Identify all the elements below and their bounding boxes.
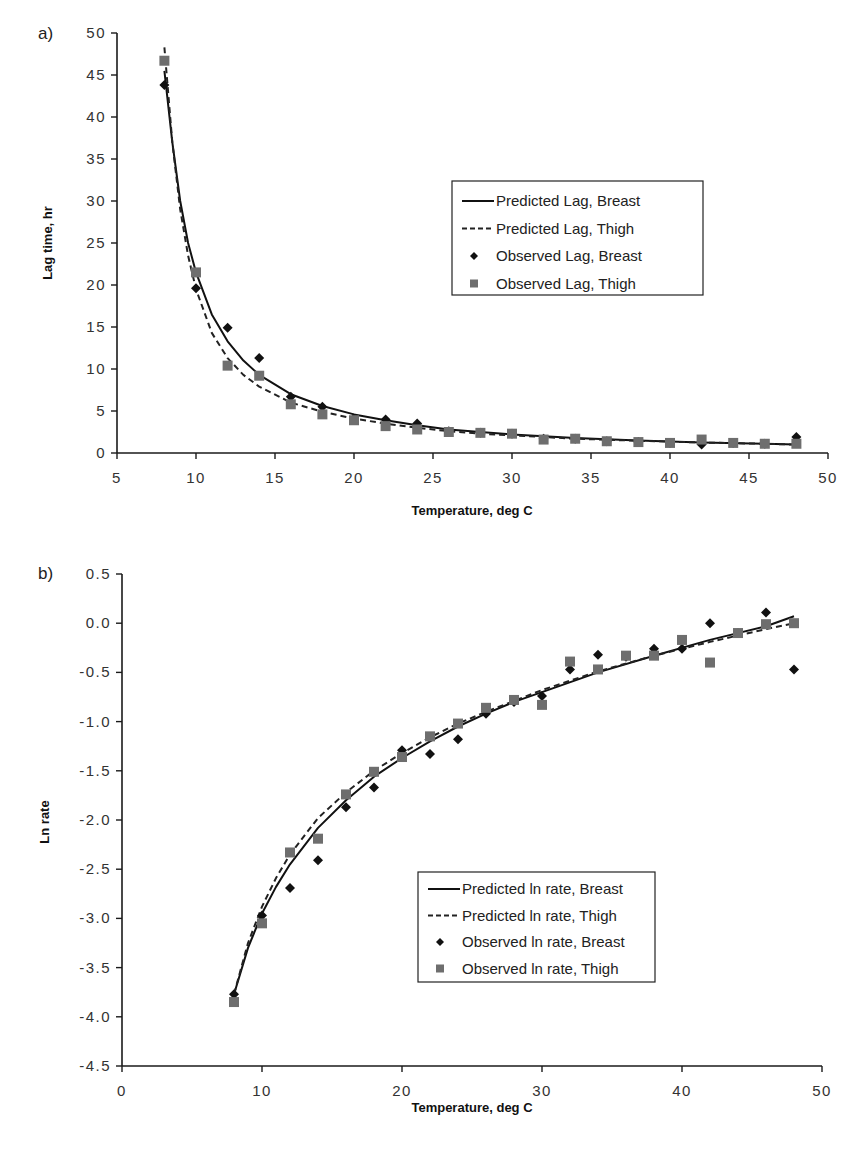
- panel-a-lag-time-chart: a) 05101520253035404550 5101520253035404…: [38, 24, 838, 518]
- legend-item: Observed ln rate, Breast: [436, 933, 625, 950]
- x-tick-label: 15: [265, 469, 285, 486]
- data-point-square: [791, 439, 801, 449]
- data-point-square: [369, 767, 379, 777]
- data-point-square: [665, 438, 675, 448]
- panel-b-y-axis-ticks: 0.50.0-0.5-1.0-1.5-2.0-2.5-3.0-3.5-4.0-4…: [79, 565, 122, 1074]
- x-tick-label: 50: [818, 469, 838, 486]
- y-tick-label: 35: [86, 150, 106, 167]
- data-point-square: [412, 424, 422, 434]
- data-point-square: [286, 399, 296, 409]
- y-tick-label: -4.0: [79, 1008, 111, 1025]
- x-tick-label: 10: [186, 469, 206, 486]
- panel-b-legend: Predicted ln rate, BreastPredicted ln ra…: [418, 872, 655, 982]
- data-point-square: [509, 695, 519, 705]
- data-point-diamond: [761, 607, 771, 617]
- y-tick-label: 5: [96, 402, 106, 419]
- data-point-square: [728, 438, 738, 448]
- legend-item: Observed ln rate, Thigh: [436, 960, 618, 977]
- y-tick-label: 15: [86, 318, 106, 335]
- panel-a-y-axis-ticks: 05101520253035404550: [86, 24, 117, 461]
- y-tick-label: 25: [86, 234, 106, 251]
- panel-a-x-axis-title: Temperature, deg C: [411, 503, 533, 518]
- data-point-square: [677, 635, 687, 645]
- legend-square-icon: [470, 280, 478, 288]
- legend-label: Predicted Lag, Thigh: [496, 220, 634, 237]
- data-point-square: [453, 719, 463, 729]
- x-tick-label: 0: [117, 1082, 127, 1099]
- data-point-square: [257, 918, 267, 928]
- data-point-square: [475, 428, 485, 438]
- y-tick-label: -2.0: [79, 811, 111, 828]
- data-point-square: [705, 658, 715, 668]
- data-point-square: [254, 371, 264, 381]
- data-point-diamond: [677, 644, 687, 654]
- data-point-square: [444, 427, 454, 437]
- data-point-square: [285, 847, 295, 857]
- data-point-diamond: [453, 734, 463, 744]
- panel-b-y-axis-title: Ln rate: [37, 800, 52, 843]
- data-point-square: [229, 997, 239, 1007]
- x-tick-label: 25: [423, 469, 443, 486]
- legend-label: Observed Lag, Breast: [496, 247, 643, 264]
- data-point-square: [397, 752, 407, 762]
- y-tick-label: 45: [86, 66, 106, 83]
- x-tick-label: 45: [739, 469, 759, 486]
- data-point-diamond: [285, 883, 295, 893]
- data-point-square: [481, 703, 491, 713]
- data-point-square: [223, 361, 233, 371]
- data-point-square: [633, 437, 643, 447]
- panel-a-legend: Predicted Lag, BreastPredicted Lag, Thig…: [452, 181, 703, 295]
- data-point-diamond: [593, 650, 603, 660]
- legend-label: Predicted ln rate, Thigh: [462, 907, 617, 924]
- data-point-square: [507, 429, 517, 439]
- data-point-diamond: [789, 664, 799, 674]
- y-tick-label: -3.5: [79, 959, 111, 976]
- data-point-square: [317, 409, 327, 419]
- data-point-square: [733, 628, 743, 638]
- data-point-square: [341, 789, 351, 799]
- data-point-square: [537, 700, 547, 710]
- data-point-square: [381, 421, 391, 431]
- y-tick-label: -1.5: [79, 762, 111, 779]
- x-tick-label: 50: [812, 1082, 832, 1099]
- panel-b-label: b): [38, 564, 53, 583]
- data-point-diamond: [369, 783, 379, 793]
- data-point-square: [349, 415, 359, 425]
- y-tick-label: -1.0: [79, 713, 111, 730]
- y-tick-label: 0: [96, 444, 106, 461]
- legend-label: Observed Lag, Thigh: [496, 275, 636, 292]
- y-tick-label: -2.5: [79, 860, 111, 877]
- y-tick-label: -3.0: [79, 909, 111, 926]
- x-tick-label: 35: [581, 469, 601, 486]
- data-point-square: [602, 436, 612, 446]
- data-point-diamond: [425, 749, 435, 759]
- data-point-square: [789, 618, 799, 628]
- data-point-square: [760, 439, 770, 449]
- data-point-square: [761, 619, 771, 629]
- data-point-diamond: [191, 283, 201, 293]
- data-point-square: [191, 267, 201, 277]
- data-point-square: [621, 651, 631, 661]
- panel-a-x-axis-ticks: 5101520253035404550: [112, 453, 838, 486]
- legend-item: Observed Lag, Breast: [470, 247, 643, 264]
- data-point-square: [539, 435, 549, 445]
- panel-b-x-axis-title: Temperature, deg C: [411, 1100, 533, 1115]
- x-tick-label: 10: [252, 1082, 272, 1099]
- x-tick-label: 20: [392, 1082, 412, 1099]
- data-point-diamond: [223, 323, 233, 333]
- data-point-diamond: [254, 353, 264, 363]
- y-tick-label: -4.5: [79, 1057, 111, 1074]
- legend-label: Predicted Lag, Breast: [496, 192, 641, 209]
- data-point-square: [593, 664, 603, 674]
- data-point-square: [425, 731, 435, 741]
- legend-label: Predicted ln rate, Breast: [462, 880, 624, 897]
- x-tick-label: 40: [660, 469, 680, 486]
- y-tick-label: 10: [86, 360, 106, 377]
- data-point-diamond: [313, 855, 323, 865]
- data-point-square: [697, 435, 707, 445]
- y-tick-label: -0.5: [79, 663, 111, 680]
- data-point-square: [159, 56, 169, 66]
- data-point-square: [570, 434, 580, 444]
- legend-square-icon: [436, 965, 444, 973]
- y-tick-label: 40: [86, 108, 106, 125]
